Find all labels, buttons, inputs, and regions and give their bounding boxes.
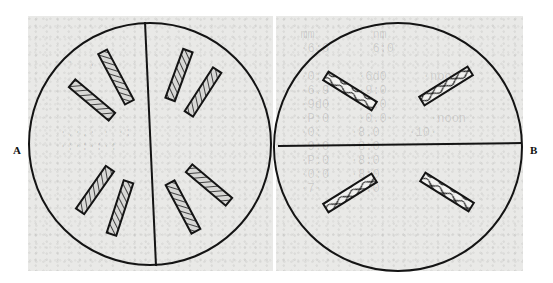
- crystal-orientation-diagram: [0, 0, 553, 283]
- panel-label-a: A: [13, 144, 21, 156]
- crystal-a-7: [166, 180, 201, 233]
- crystal-a-5: [76, 166, 114, 214]
- crystal-b-1: [323, 72, 377, 111]
- crystal-b-2: [419, 67, 473, 106]
- crystal-a-4: [185, 67, 222, 116]
- crystal-a-8: [186, 164, 232, 205]
- crystal-b-3: [323, 174, 377, 213]
- crystal-b-4: [420, 173, 474, 212]
- divider-line-horizontal: [278, 143, 522, 146]
- panel-b: [274, 23, 522, 271]
- crystal-a-6: [107, 180, 134, 235]
- crystal-a-1: [69, 79, 115, 120]
- outline-circle-b: [274, 23, 522, 271]
- panel-a: [29, 22, 271, 266]
- crystal-a-3: [165, 49, 192, 101]
- crystal-a-2: [98, 49, 134, 104]
- panel-label-b: B: [530, 144, 537, 156]
- divider-line-vertical: [145, 22, 156, 266]
